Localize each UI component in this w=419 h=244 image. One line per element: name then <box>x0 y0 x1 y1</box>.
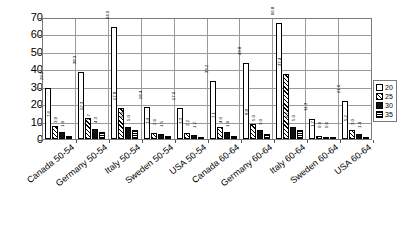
bar-value-label: 3.3 <box>182 130 187 136</box>
bar: 66.8 <box>276 23 282 139</box>
bar-value-label: 64.0 <box>109 23 114 32</box>
bar-group: 66.837.46.75.0 <box>272 19 305 139</box>
bar: 64.0 <box>111 27 117 139</box>
bar: 1.9 <box>231 136 237 139</box>
bar-value-label: 21.6 <box>340 97 345 106</box>
bar-value-label: 2.6 <box>156 131 161 137</box>
bar-value-label: 6.9 <box>123 124 128 130</box>
bar-group: 11.31.70.90.6 <box>305 19 338 139</box>
bar-value-label: 7.6 <box>50 123 55 129</box>
bar-value-label: 1.9 <box>229 133 234 139</box>
legend-item[interactable]: 20 <box>376 83 393 92</box>
bar-group: 21.65.23.01.4 <box>338 19 371 139</box>
bar-value-label: 5.2 <box>347 127 352 133</box>
bar: 5.0 <box>297 130 303 139</box>
legend-item-label: 30 <box>385 102 393 109</box>
x-axis-tick-mark <box>76 140 77 143</box>
legend-swatch <box>376 102 383 109</box>
bar: 4.3 <box>99 132 105 139</box>
bar-value-label: 3.4 <box>149 130 154 136</box>
bar-value-label: 8.8 <box>248 121 253 127</box>
legend-item[interactable]: 25 <box>376 92 393 101</box>
bar-value-label: 2.2 <box>189 132 194 138</box>
legend-item-label: 25 <box>385 93 393 100</box>
bar-group: 38.312.35.74.3 <box>75 19 108 139</box>
x-axis-tick-mark <box>274 140 275 143</box>
bar-value-label: 0.6 <box>328 134 333 140</box>
x-axis-tick-mark <box>307 140 308 143</box>
bar-value-label: 4.0 <box>222 129 227 135</box>
bar-value-label: 7.1 <box>215 124 220 130</box>
bar-value-label: 0.9 <box>321 134 326 140</box>
legend-item[interactable]: 30 <box>376 101 393 110</box>
bar-group: 64.017.86.95.0 <box>108 19 141 139</box>
bar-value-label: 6.7 <box>288 124 293 130</box>
bar-group: 18.43.42.61.5 <box>141 19 174 139</box>
bar-value-label: 5.0 <box>130 127 135 133</box>
bar-value-label: 5.0 <box>255 127 260 133</box>
bar: 1.4 <box>363 137 369 139</box>
bar-value-label: 1.2 <box>196 134 201 140</box>
x-axis-labels: Canada 50-54Germany 50-54Italy 50-54Swed… <box>43 142 371 242</box>
bar-value-label: 33.2 <box>208 77 213 86</box>
bar-value-label: 66.8 <box>274 18 279 27</box>
bar-value-label: 43.8 <box>241 58 246 67</box>
bar: 1.9 <box>66 136 72 139</box>
bar-value-label: 3.9 <box>57 129 62 135</box>
bar-value-label: 4.3 <box>97 128 102 134</box>
bar-value-label: 5.0 <box>295 127 300 133</box>
bar-value-label: 5.7 <box>90 126 95 132</box>
x-axis-tick-mark <box>340 140 341 143</box>
bar-value-label: 1.5 <box>163 133 168 139</box>
bar-value-label: 17.6 <box>175 104 180 113</box>
x-axis-tick-mark <box>175 140 176 143</box>
bar-group: 43.88.85.03.0 <box>239 19 272 139</box>
legend-item-label: 20 <box>385 84 393 91</box>
x-axis-tick-mark <box>241 140 242 143</box>
legend-swatch <box>376 111 383 118</box>
legend: 20253035 <box>373 80 397 122</box>
x-axis-tick-mark <box>109 140 110 143</box>
bar: 33.2 <box>210 81 216 139</box>
bar-group: 33.27.14.01.9 <box>207 19 240 139</box>
x-axis-tick-mark <box>208 140 209 143</box>
bar-value-label: 29.0 <box>43 84 48 93</box>
bar-value-label: 38.3 <box>76 68 81 77</box>
legend-item[interactable]: 35 <box>376 110 393 119</box>
bar: 43.8 <box>243 63 249 139</box>
bar-value-label: 1.9 <box>64 133 69 139</box>
bar: 1.5 <box>165 136 171 139</box>
x-axis-tick-mark <box>142 140 143 143</box>
bar-value-label: 18.4 <box>142 103 147 112</box>
bar-group: 17.63.32.21.2 <box>174 19 207 139</box>
bar-value-label: 1.4 <box>361 134 366 140</box>
bar-groups: 29.07.63.91.938.312.35.74.364.017.86.95.… <box>43 19 371 139</box>
bar-chart: 010203040506070 29.07.63.91.938.312.35.7… <box>0 0 419 244</box>
bar: 5.0 <box>132 130 138 139</box>
legend-item-label: 35 <box>385 111 393 118</box>
bar-value-label: 3.0 <box>354 131 359 137</box>
legend-swatch <box>376 84 383 91</box>
bar: 0.6 <box>330 137 336 139</box>
bar-group: 29.07.63.91.9 <box>43 19 75 139</box>
y-axis-tick-mark <box>39 140 42 141</box>
x-axis-tick-mark <box>373 140 374 143</box>
legend-swatch <box>376 93 383 100</box>
bar: 1.2 <box>198 137 204 139</box>
bar-value-label: 37.4 <box>281 70 286 79</box>
bar-value-label: 3.0 <box>262 131 267 137</box>
bar-value-label: 1.7 <box>314 133 319 139</box>
bar: 3.0 <box>264 134 270 139</box>
